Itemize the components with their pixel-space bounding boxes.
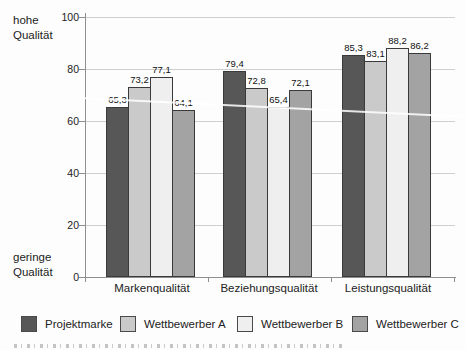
- y-axis-tick-mark: [79, 173, 85, 174]
- quality-comparison-bar-chart: hohe Qualität geringe Qualität 020406080…: [0, 0, 465, 350]
- y-axis-tick-label: 100: [49, 11, 79, 23]
- bar-value-label: 65,4: [259, 94, 299, 105]
- bar-value-label: 72,1: [281, 77, 321, 88]
- bar-value-label: 72,8: [237, 75, 277, 86]
- y-axis-tick-label: 40: [49, 167, 79, 179]
- y-axis-label-low-line2: Qualität: [13, 265, 53, 280]
- y-axis-tick-label: 80: [49, 63, 79, 75]
- bar-value-label: 73,2: [120, 74, 160, 85]
- y-axis-tick-label: 60: [49, 115, 79, 127]
- legend-label: Wettbewerber B: [261, 318, 343, 330]
- bar-wettbewerber-a: [364, 61, 387, 277]
- cut-off-caption-text: [14, 344, 344, 348]
- legend-label: Wettbewerber C: [376, 318, 459, 330]
- bar-wettbewerber-b: [267, 107, 290, 277]
- x-axis-line: [85, 277, 456, 278]
- gridline: [85, 17, 455, 18]
- y-axis-label-low-quality: geringe Qualität: [13, 250, 53, 280]
- legend-swatch: [21, 316, 37, 332]
- bar-wettbewerber-a: [128, 87, 151, 277]
- y-axis-tick-label: 20: [49, 219, 79, 231]
- bar-wettbewerber-c: [289, 90, 312, 277]
- y-axis-label-low-line1: geringe: [13, 250, 53, 265]
- category-label: Leistungsqualität: [313, 282, 463, 294]
- y-axis-label-high-line2: Qualität: [13, 28, 53, 43]
- y-axis-label-high-line1: hohe: [13, 13, 53, 28]
- y-axis-tick-label: 0: [49, 271, 79, 283]
- bar-wettbewerber-c: [172, 110, 195, 277]
- legend-swatch: [352, 316, 368, 332]
- bar-wettbewerber-c: [408, 53, 431, 277]
- bar-value-label: 79,4: [215, 58, 255, 69]
- bar-value-label: 83,1: [356, 48, 396, 59]
- y-axis-tick-mark: [79, 69, 85, 70]
- bar-value-label: 77,1: [142, 64, 182, 75]
- bar-value-label: 86,2: [400, 40, 440, 51]
- legend-label: Wettbewerber A: [144, 318, 226, 330]
- y-axis-label-high-quality: hohe Qualität: [13, 13, 53, 43]
- bar-projektmarke: [342, 55, 365, 277]
- bar-wettbewerber-a: [245, 88, 268, 277]
- y-axis-tick-mark: [79, 17, 85, 18]
- legend-swatch: [237, 316, 253, 332]
- bar-projektmarke: [223, 71, 246, 277]
- legend-swatch: [120, 316, 136, 332]
- bar-wettbewerber-b: [386, 48, 409, 277]
- legend-label: Projektmarke: [45, 318, 113, 330]
- bar-projektmarke: [106, 107, 129, 277]
- y-axis-tick-mark: [79, 121, 85, 122]
- y-axis-line: [85, 13, 86, 277]
- y-axis-tick-mark: [79, 225, 85, 226]
